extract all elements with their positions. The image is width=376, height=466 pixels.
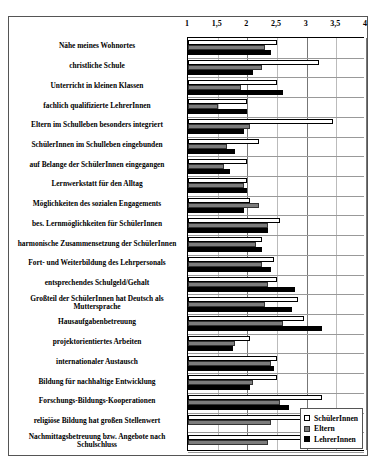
bar-row <box>188 77 364 97</box>
category-label: entsprechendes Schulgeld/Gehalt <box>11 279 183 288</box>
x-axis-tick-label: 1 <box>185 19 189 28</box>
category-label: Nachmittagsbetreuung bzw. Angebote nach … <box>11 433 183 450</box>
bar-row <box>188 156 364 176</box>
category-label: Fort- und Weiterbildung des Lehrpersonal… <box>11 259 183 268</box>
bar-black <box>188 385 250 390</box>
bar-row <box>188 294 364 314</box>
bar-black <box>188 346 233 351</box>
legend-swatch-icon <box>304 415 310 421</box>
bar-row <box>188 97 364 117</box>
category-label: Forschungs-Bildungs-Kooperationen <box>11 397 183 406</box>
bar-black <box>188 307 292 312</box>
category-label: fachlich qualifizierte LehrerInnen <box>11 102 183 111</box>
legend-swatch-icon <box>304 436 310 442</box>
bar-black <box>188 129 244 134</box>
bar-black <box>188 247 262 252</box>
bar-row <box>188 58 364 78</box>
category-label: Unterricht in kleinen Klassen <box>11 82 183 91</box>
bar-row <box>188 314 364 334</box>
category-label: Hausaufgabenbetreuung <box>11 318 183 327</box>
legend-label: LehrerInnen <box>314 435 356 444</box>
category-label: Möglichkeiten des sozialen Engagements <box>11 200 183 209</box>
bar-row <box>188 117 364 137</box>
category-label: internationaler Austausch <box>11 358 183 367</box>
bar-black <box>188 405 289 410</box>
bar-row <box>188 373 364 393</box>
bar-row <box>188 215 364 235</box>
legend-entry: SchülerInnen <box>304 414 358 423</box>
bar-black <box>188 70 253 75</box>
category-label: Großteil der SchülerInnen hat Deutsch al… <box>11 295 183 312</box>
bar-gray <box>188 420 271 425</box>
legend-entry: Eltern <box>304 424 358 433</box>
bar-row <box>188 196 364 216</box>
x-axis-tick-label: 3 <box>304 19 308 28</box>
x-axis-tick-label: 1,5 <box>212 19 222 28</box>
x-axis-tick-label: 4 <box>363 19 367 28</box>
bar-black <box>188 208 244 213</box>
category-label: christliche Schule <box>11 62 183 71</box>
category-label: Eltern im Schulleben besonders integrier… <box>11 121 183 130</box>
bar-black <box>188 267 271 272</box>
legend-label: Eltern <box>314 424 335 433</box>
bar-row <box>188 176 364 196</box>
plot-area <box>187 37 364 451</box>
bar-row <box>188 334 364 354</box>
bar-black <box>188 366 274 371</box>
legend-entry: LehrerInnen <box>304 435 358 444</box>
legend-swatch-icon <box>304 426 310 432</box>
category-label: Bildung für nachhaltige Entwicklung <box>11 378 183 387</box>
x-axis-tick-label: 2,5 <box>271 19 281 28</box>
x-axis-tick-label: 2 <box>244 19 248 28</box>
bar-row <box>188 137 364 157</box>
row-separator <box>188 452 364 453</box>
chart-frame: 11,522,533,54 Nähe meines Wohnorteschris… <box>8 16 368 456</box>
bar-black <box>188 228 268 233</box>
bar-black <box>188 169 230 174</box>
bar-black <box>188 149 235 154</box>
bar-black <box>188 109 247 114</box>
category-labels: Nähe meines Wohnorteschristliche SchuleU… <box>11 37 186 451</box>
bar-black <box>188 90 283 95</box>
bar-row <box>188 38 364 58</box>
category-label: projektorientiertes Arbeiten <box>11 338 183 347</box>
category-label: Nähe meines Wohnortes <box>11 42 183 51</box>
bar-row <box>188 255 364 275</box>
legend-label: SchülerInnen <box>314 414 358 423</box>
category-label: SchülerInnen im Schulleben eingebunden <box>11 141 183 150</box>
category-label: bes. Lernmöglichkeiten für SchülerInnen <box>11 220 183 229</box>
category-label: auf Belange der SchülerInnen eingegangen <box>11 161 183 170</box>
category-label: harmonische Zusammensetzung der SchülerI… <box>11 240 183 249</box>
bar-row <box>188 235 364 255</box>
bar-black <box>188 287 295 292</box>
gridline <box>366 38 367 450</box>
bar-gray <box>188 440 268 445</box>
x-axis-tick-label: 3,5 <box>330 19 340 28</box>
category-label: religiöse Bildung hat großen Stellenwert <box>11 417 183 426</box>
bar-black <box>188 50 271 55</box>
bar-black <box>188 326 322 331</box>
bar-row <box>188 275 364 295</box>
bar-row <box>188 353 364 373</box>
bar-black <box>188 188 247 193</box>
category-label: Lernwerkstatt für den Alltag <box>11 180 183 189</box>
legend: SchülerInnenElternLehrerInnen <box>300 408 363 449</box>
x-axis-tick-labels: 11,522,533,54 <box>9 17 367 37</box>
bar-rows <box>188 38 364 450</box>
